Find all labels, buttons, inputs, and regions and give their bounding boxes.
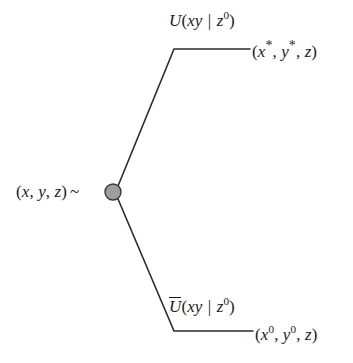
conditional-bar-icon: | [202,11,216,30]
upper-state-var-y: y [281,42,289,61]
lower-state-var-z: z [305,325,312,344]
lower-state-comma-2: , [296,325,305,344]
lower-operator-symbol-with-overbar: U [169,298,181,315]
lower-operator-label: U(xy | z0) [169,298,235,315]
lower-state-close-paren: ) [312,325,318,344]
upper-state-x-superscript: * [265,38,272,53]
lower-op-close-paren: ) [229,297,235,316]
lower-op-args: xy [187,297,202,316]
source-var-y: y [38,182,46,201]
upper-state-close-paren: ) [311,42,317,61]
lower-state-label: (x0, y0, z) [255,326,317,343]
lower-state-var-y: y [283,325,291,344]
source-state-node [105,184,121,200]
upper-op-close-paren: ) [229,11,235,30]
upper-state-comma-2: , [296,42,305,61]
source-comma-1: , [29,182,38,201]
upper-branch-line [118,49,250,186]
upper-state-y-superscript: * [289,38,296,53]
upper-state-label: (x*, y*, z) [252,43,317,60]
lower-state-comma-1: , [274,325,283,344]
conditional-bar-icon: | [202,297,216,316]
upper-operator-label: U(xy | z0) [169,12,235,29]
branching-diagram: (x, y, z)~ U(xy | z0) (x*, y*, z) U(xy |… [0,0,353,363]
tilde-icon: ~ [67,182,79,201]
upper-state-comma-1: , [273,42,282,61]
upper-op-args: xy [187,11,202,30]
upper-operator-symbol: U [169,11,181,30]
source-state-label: (x, y, z)~ [16,183,79,200]
